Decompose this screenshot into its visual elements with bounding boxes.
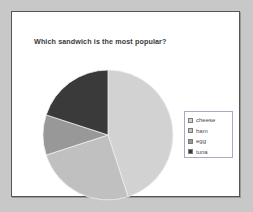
square-swatch-icon: [188, 128, 193, 133]
pie-slice-group: [43, 70, 173, 200]
chart-legend: cheese ham egg tuna: [184, 111, 233, 158]
legend-item-tuna[interactable]: tuna: [188, 147, 229, 157]
square-swatch-icon: [188, 139, 193, 144]
legend-item-label: cheese: [196, 117, 215, 123]
legend-item-egg[interactable]: egg: [188, 136, 229, 146]
square-swatch-icon: [188, 118, 193, 123]
square-swatch-icon: [188, 149, 193, 154]
pie-chart: [42, 69, 174, 201]
page-title: Which sandwich is the most popular?: [34, 37, 167, 46]
legend-item-cheese[interactable]: cheese: [188, 115, 229, 125]
legend-item-label: ham: [196, 128, 208, 134]
slide-frame: Which sandwich is the most popular? chee…: [11, 11, 240, 197]
legend-item-label: egg: [196, 138, 206, 144]
legend-item-label: tuna: [196, 149, 208, 155]
pie-chart-svg: [42, 69, 174, 201]
slide-canvas: Which sandwich is the most popular? chee…: [0, 0, 253, 212]
legend-item-ham[interactable]: ham: [188, 126, 229, 136]
